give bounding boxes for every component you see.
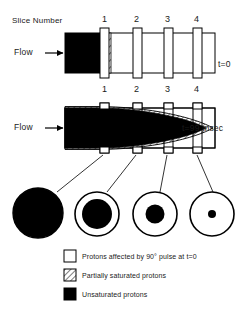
legend-swatch-filled [64, 288, 76, 300]
slice-bar-2-t0 [133, 28, 142, 78]
slice-number-top-1: 1 [102, 15, 107, 24]
slice-bar-1-t0 [100, 28, 109, 78]
mri-flow-diagram [0, 0, 246, 313]
legend-label-hatched: Partially saturated protons [82, 272, 166, 279]
cross-section-4 [190, 192, 234, 236]
slice-bar-2-cap-bottom [133, 147, 142, 153]
slice-bar-4-cap-bottom [193, 147, 202, 153]
cross-sections [13, 188, 234, 238]
flow-label-t99: Flow [14, 123, 33, 132]
cross-section-3 [133, 192, 177, 236]
unsaturated-bolus-t0 [65, 33, 100, 73]
slice-number-top-3: 3 [165, 15, 170, 24]
legend-swatches [64, 250, 76, 300]
slice-number-bottom-2: 2 [134, 85, 139, 94]
cross-section-4-core [208, 210, 216, 218]
slice-number-bottom-3: 3 [165, 85, 170, 94]
slice-number-label: Slice Number [12, 17, 62, 25]
slice-bar-3-cap-bottom [164, 147, 173, 153]
legend-swatch-open [64, 250, 76, 262]
legend-swatch-hatched [64, 269, 76, 281]
flow-label-t0: Flow [14, 48, 33, 57]
slice-bar-2-cap-top [133, 103, 142, 109]
connector-slice-1 [57, 155, 103, 192]
slice-number-bottom-4: 4 [194, 85, 199, 94]
slice-bar-1-cap-bottom [100, 147, 109, 153]
connector-slice-4 [197, 155, 213, 192]
slice-number-top-2: 2 [134, 15, 139, 24]
slice-bar-3-cap-top [164, 103, 173, 109]
cross-section-3-core [146, 205, 165, 224]
cross-section-1 [13, 188, 63, 238]
legend-label-open: Protons affected by 90° pulse at t=0 [82, 253, 197, 260]
slice-bar-3-t0 [164, 28, 173, 78]
slice-bar-4-t0 [193, 28, 202, 78]
slice-bar-4-cap-top [193, 103, 202, 109]
connector-slice-2 [107, 155, 136, 192]
panel-t0 [45, 28, 215, 78]
slice-number-top-4: 4 [194, 15, 199, 24]
cross-section-2 [75, 192, 119, 236]
connector-slice-3 [160, 155, 167, 192]
cross-section-2-core [82, 199, 112, 229]
slice-number-bottom-1: 1 [102, 85, 107, 94]
slice-bar-2-t99 [133, 103, 142, 153]
connector-lines [57, 155, 213, 192]
time-label-t0: t=0 [218, 60, 231, 69]
legend-label-filled: Unsaturated protons [82, 291, 147, 298]
slice-bar-1-cap-top [100, 103, 109, 109]
cross-section-1-core [13, 188, 63, 238]
slice-bar-1-t99 [100, 103, 109, 153]
time-label-t99: t=99 msec [182, 124, 223, 133]
slice-bar-3-t99 [164, 103, 173, 153]
